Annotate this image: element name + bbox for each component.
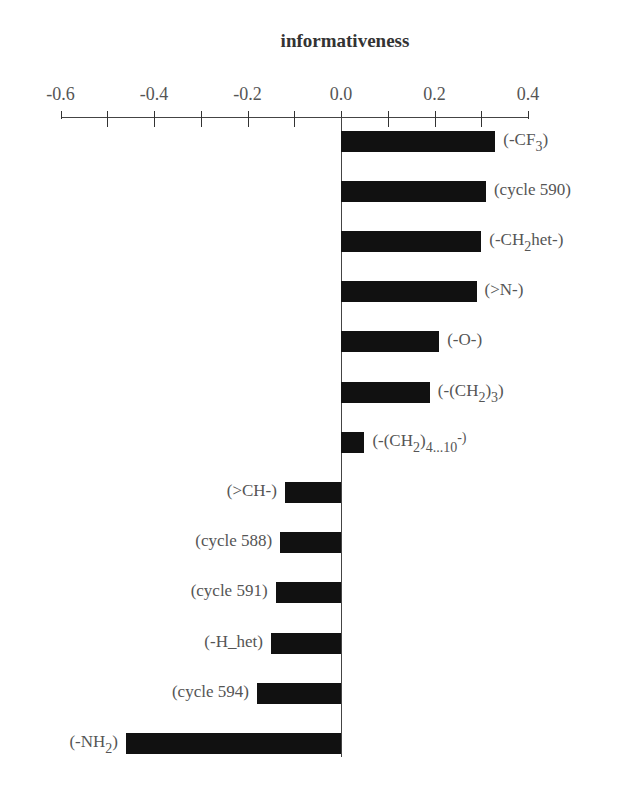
bar xyxy=(276,582,341,603)
chart-title: informativeness xyxy=(0,30,633,52)
bar-label: (>CH-) xyxy=(227,480,277,501)
bar xyxy=(271,633,341,654)
bar-label: (-CH2het-) xyxy=(489,229,563,250)
bar xyxy=(126,733,341,754)
bar-label: (-(CH2)3) xyxy=(438,380,504,401)
x-axis-tick xyxy=(154,111,155,127)
bar-label: (cycle 588) xyxy=(195,530,272,551)
bar-label: (-CF3) xyxy=(503,129,548,150)
bar xyxy=(285,482,341,503)
bar xyxy=(280,532,341,553)
bar xyxy=(341,181,486,202)
bar-label: (-O-) xyxy=(447,329,482,350)
bar-label: (-NH2) xyxy=(69,731,118,752)
informativeness-bar-chart: informativeness -0.6-0.4-0.20.00.20.4 (-… xyxy=(0,0,633,798)
x-tick-label: -0.2 xyxy=(233,84,262,105)
x-axis-tick xyxy=(435,111,436,127)
x-tick-label: -0.6 xyxy=(46,84,75,105)
x-axis-tick xyxy=(61,111,62,119)
x-axis-tick xyxy=(201,111,202,127)
bar xyxy=(341,382,430,403)
bar xyxy=(341,331,439,352)
x-tick-label: -0.4 xyxy=(140,84,169,105)
x-tick-label: 0.2 xyxy=(423,84,446,105)
x-axis-tick xyxy=(107,111,108,127)
bar-label: (cycle 591) xyxy=(191,580,268,601)
bar xyxy=(257,683,341,704)
x-tick-label: 0.4 xyxy=(517,84,540,105)
x-axis-tick xyxy=(528,111,529,119)
bar xyxy=(341,281,477,302)
x-tick-label: 0.0 xyxy=(330,84,353,105)
bar-label: (-H_het) xyxy=(204,631,263,652)
bar-label: (>N-) xyxy=(485,279,524,300)
x-axis-tick xyxy=(388,111,389,127)
bar-label: (cycle 590) xyxy=(494,179,571,200)
bar xyxy=(341,231,481,252)
bar xyxy=(341,432,364,453)
x-axis-tick xyxy=(294,111,295,127)
bar xyxy=(341,131,495,152)
bar-label: (-(CH2)4...10-) xyxy=(372,430,466,451)
x-axis-tick xyxy=(481,111,482,127)
bar-label: (cycle 594) xyxy=(172,681,249,702)
x-axis-tick xyxy=(248,111,249,127)
